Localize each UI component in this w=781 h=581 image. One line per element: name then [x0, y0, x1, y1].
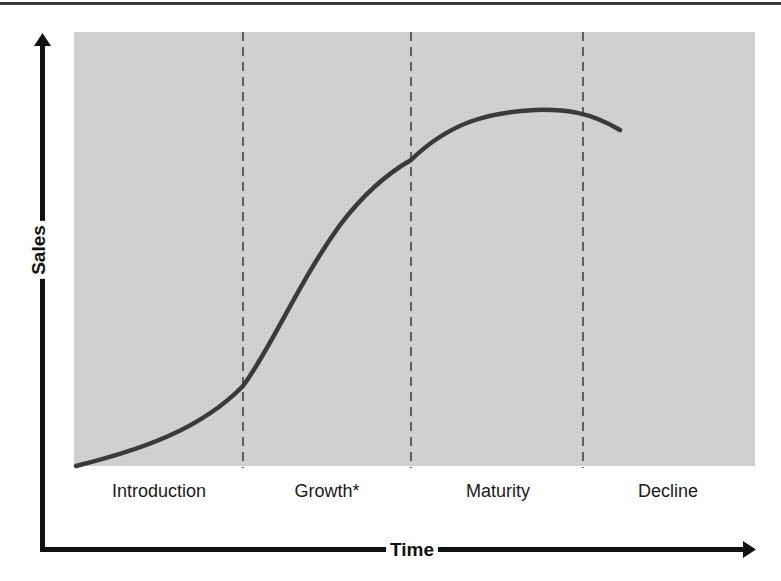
x-axis-arrow-icon [743, 541, 756, 558]
chart-panel [74, 32, 755, 466]
phase-label-maturity: Maturity [418, 481, 578, 502]
phase-label-decline: Decline [588, 481, 748, 502]
y-axis-label: Sales [28, 221, 50, 279]
phase-label-growth: Growth* [247, 481, 407, 502]
y-axis [34, 33, 51, 552]
phase-label-introduction: Introduction [79, 481, 239, 502]
y-axis-arrow-icon [34, 33, 51, 46]
x-axis-label: Time [386, 539, 438, 561]
